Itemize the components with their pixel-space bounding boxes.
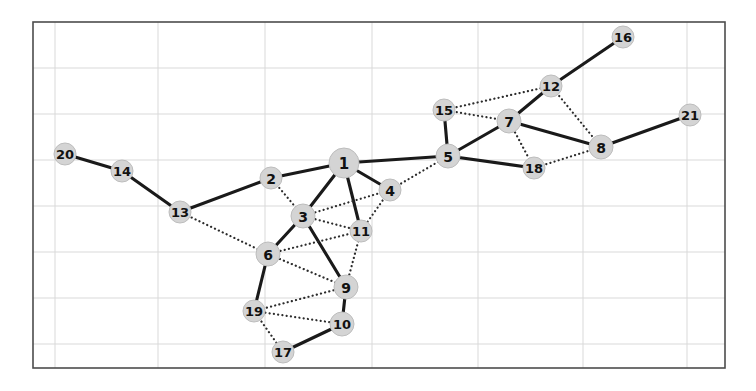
node-label: 4 bbox=[385, 183, 395, 199]
node-label: 20 bbox=[56, 147, 74, 162]
graph-node-5[interactable]: 5 bbox=[436, 144, 460, 168]
graph-node-17[interactable]: 17 bbox=[272, 341, 294, 363]
node-label: 14 bbox=[113, 164, 131, 179]
graph-node-16[interactable]: 16 bbox=[612, 26, 634, 48]
node-label: 21 bbox=[681, 108, 699, 123]
graph-canvas: 123456789101112131415161718192021 bbox=[0, 0, 756, 391]
graph-node-20[interactable]: 20 bbox=[54, 143, 76, 165]
node-label: 7 bbox=[504, 114, 514, 130]
node-label: 13 bbox=[171, 205, 189, 220]
node-label: 1 bbox=[339, 155, 349, 173]
graph-node-18[interactable]: 18 bbox=[523, 157, 545, 179]
plot-background bbox=[33, 22, 725, 368]
graph-node-2[interactable]: 2 bbox=[260, 167, 282, 189]
node-label: 11 bbox=[352, 224, 370, 239]
graph-node-3[interactable]: 3 bbox=[291, 204, 315, 228]
graph-node-19[interactable]: 19 bbox=[243, 300, 265, 322]
node-label: 19 bbox=[245, 304, 263, 319]
graph-node-1[interactable]: 1 bbox=[329, 148, 359, 178]
node-label: 9 bbox=[341, 280, 351, 296]
node-label: 16 bbox=[614, 30, 632, 45]
node-label: 6 bbox=[263, 247, 273, 263]
node-label: 3 bbox=[298, 209, 308, 225]
node-label: 17 bbox=[274, 345, 292, 360]
graph-node-7[interactable]: 7 bbox=[497, 109, 521, 133]
graph-node-14[interactable]: 14 bbox=[111, 160, 133, 182]
node-label: 10 bbox=[333, 317, 351, 332]
graph-node-15[interactable]: 15 bbox=[433, 99, 455, 121]
node-label: 18 bbox=[525, 161, 543, 176]
graph-node-4[interactable]: 4 bbox=[379, 179, 401, 201]
node-label: 15 bbox=[435, 103, 453, 118]
graph-node-11[interactable]: 11 bbox=[350, 220, 372, 242]
node-label: 2 bbox=[266, 171, 276, 187]
node-label: 8 bbox=[596, 140, 606, 156]
graph-node-13[interactable]: 13 bbox=[169, 201, 191, 223]
graph-node-9[interactable]: 9 bbox=[334, 275, 358, 299]
graph-node-8[interactable]: 8 bbox=[589, 135, 613, 159]
graph-node-21[interactable]: 21 bbox=[679, 104, 701, 126]
node-label: 12 bbox=[542, 79, 560, 94]
graph-node-10[interactable]: 10 bbox=[330, 312, 354, 336]
network-graph-figure: 123456789101112131415161718192021 bbox=[0, 0, 756, 391]
node-label: 5 bbox=[443, 149, 453, 165]
graph-node-6[interactable]: 6 bbox=[256, 242, 280, 266]
graph-node-12[interactable]: 12 bbox=[540, 75, 562, 97]
